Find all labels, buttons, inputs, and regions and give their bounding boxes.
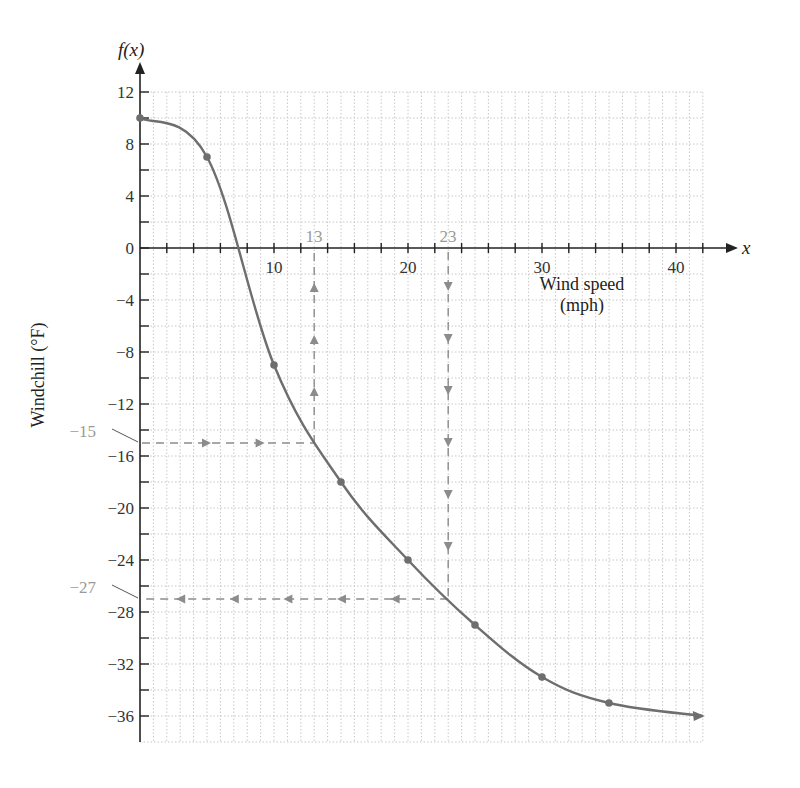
lookup-annotations <box>112 252 453 604</box>
arrow-down-icon <box>444 490 453 499</box>
data-point <box>270 361 278 369</box>
data-point <box>203 153 211 161</box>
data-point <box>404 556 412 564</box>
x-variable-label: x <box>741 237 751 258</box>
annotation-leader-15 <box>112 429 138 442</box>
arrow-left-icon <box>391 595 400 604</box>
arrow-down-icon <box>444 386 453 395</box>
y-variable-label: f(x) <box>118 39 144 61</box>
arrow-up-icon <box>310 387 319 396</box>
x-axis-title-line1: Wind speed <box>540 274 625 294</box>
arrow-left-icon <box>283 595 292 604</box>
arrow-down-icon <box>444 282 453 291</box>
y-tick-label: −8 <box>116 343 134 362</box>
y-tick-label: −16 <box>107 447 134 466</box>
data-point <box>471 621 479 629</box>
y-tick-label: 4 <box>126 187 135 206</box>
x-tick-label: 20 <box>400 258 417 277</box>
data-point <box>605 699 613 707</box>
annotation-x-23: 23 <box>440 227 457 246</box>
arrow-left-icon <box>230 595 239 604</box>
windchill-chart: 1020304012840−4−8−12−16−20−24−28−32−36 f… <box>0 0 800 788</box>
y-tick-label: 12 <box>117 83 134 102</box>
y-tick-label: −28 <box>107 603 134 622</box>
y-tick-label: −12 <box>107 395 134 414</box>
y-tick-label: −32 <box>107 655 134 674</box>
y-axis-title: Windchill (°F) <box>28 323 49 428</box>
y-axis-arrow-icon <box>135 62 145 74</box>
y-tick-label: −24 <box>107 551 134 570</box>
grid <box>140 92 703 742</box>
x-tick-label: 10 <box>266 258 283 277</box>
arrow-left-icon <box>337 595 346 604</box>
data-point <box>136 114 144 122</box>
y-tick-label: −36 <box>107 707 134 726</box>
annotation-leader-27 <box>112 585 138 598</box>
annotation-y-minus15: −15 <box>69 422 96 441</box>
arrow-down-icon <box>444 334 453 343</box>
x-tick-label: 40 <box>668 258 685 277</box>
arrow-up-icon <box>310 283 319 292</box>
x-axis-title-line2: (mph) <box>560 295 604 316</box>
x-axis-arrow-icon <box>726 243 738 253</box>
y-tick-label: −20 <box>107 499 134 518</box>
arrow-down-icon <box>444 438 453 447</box>
annotation-y-minus27: −27 <box>69 578 96 597</box>
arrow-left-icon <box>176 595 185 604</box>
axes <box>135 62 738 742</box>
windchill-curve <box>136 114 705 721</box>
y-tick-label: −4 <box>116 291 135 310</box>
y-tick-label: 0 <box>126 239 135 258</box>
arrow-down-icon <box>444 542 453 551</box>
arrow-up-icon <box>310 335 319 344</box>
data-point <box>337 478 345 486</box>
annotation-x-13: 13 <box>306 227 323 246</box>
data-point <box>538 673 546 681</box>
y-tick-label: 8 <box>126 135 135 154</box>
